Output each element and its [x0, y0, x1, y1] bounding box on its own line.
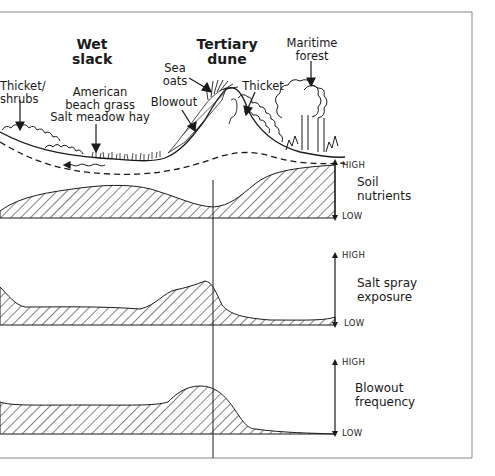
panel-title-line: Soil: [357, 175, 411, 189]
label-sea-oats: Sea oats: [160, 62, 190, 87]
soil-nutrients-panel: [0, 159, 338, 221]
salt-spray-title: Salt spray exposure: [357, 276, 417, 305]
label-line: shrubs: [0, 93, 42, 106]
panel-title-line: exposure: [357, 290, 417, 304]
zone-label-wet-slack: Wet slack: [72, 37, 112, 68]
label-line: American: [50, 86, 150, 99]
label-line: Maritime: [282, 37, 342, 50]
label-thicket: Thicket: [240, 80, 286, 93]
salt-spray-panel: [0, 252, 338, 328]
blowout-frequency-title: Blowout frequency: [355, 381, 415, 410]
dune-profile-diagram: [0, 0, 495, 476]
soil-nutrients-low-label: LOW: [342, 211, 362, 221]
soil-nutrients-high-label: HIGH: [342, 160, 365, 170]
zone-label-tertiary-dune: Tertiary dune: [192, 37, 262, 68]
salt-spray-high-label: HIGH: [342, 250, 365, 260]
label-maritime-forest: Maritime forest: [282, 37, 342, 62]
blowout-frequency-panel: [0, 359, 338, 437]
panel-title-line: frequency: [355, 395, 415, 409]
label-thicket-shrubs: Thicket/ shrubs: [0, 80, 42, 105]
panel-title-line: nutrients: [357, 189, 411, 203]
label-line: Sea: [160, 62, 190, 75]
zone-label-line: Wet: [72, 37, 112, 52]
salt-spray-low-label: LOW: [344, 318, 364, 328]
label-line: oats: [160, 75, 190, 88]
label-blowout: Blowout: [148, 96, 200, 109]
zone-label-line: dune: [192, 52, 262, 67]
label-line: Thicket/: [0, 80, 42, 93]
blowout-frequency-low-label: LOW: [342, 428, 362, 438]
blowout-frequency-high-label: HIGH: [342, 357, 365, 367]
zone-label-line: Tertiary: [192, 37, 262, 52]
label-line: Salt meadow hay: [50, 111, 150, 124]
label-line: forest: [282, 50, 342, 63]
soil-nutrients-title: Soil nutrients: [357, 175, 411, 204]
zone-label-line: slack: [72, 52, 112, 67]
panel-title-line: Salt spray: [357, 276, 417, 290]
panel-title-line: Blowout: [355, 381, 415, 395]
label-american-beach-grass: American beach grass Salt meadow hay: [50, 86, 150, 124]
